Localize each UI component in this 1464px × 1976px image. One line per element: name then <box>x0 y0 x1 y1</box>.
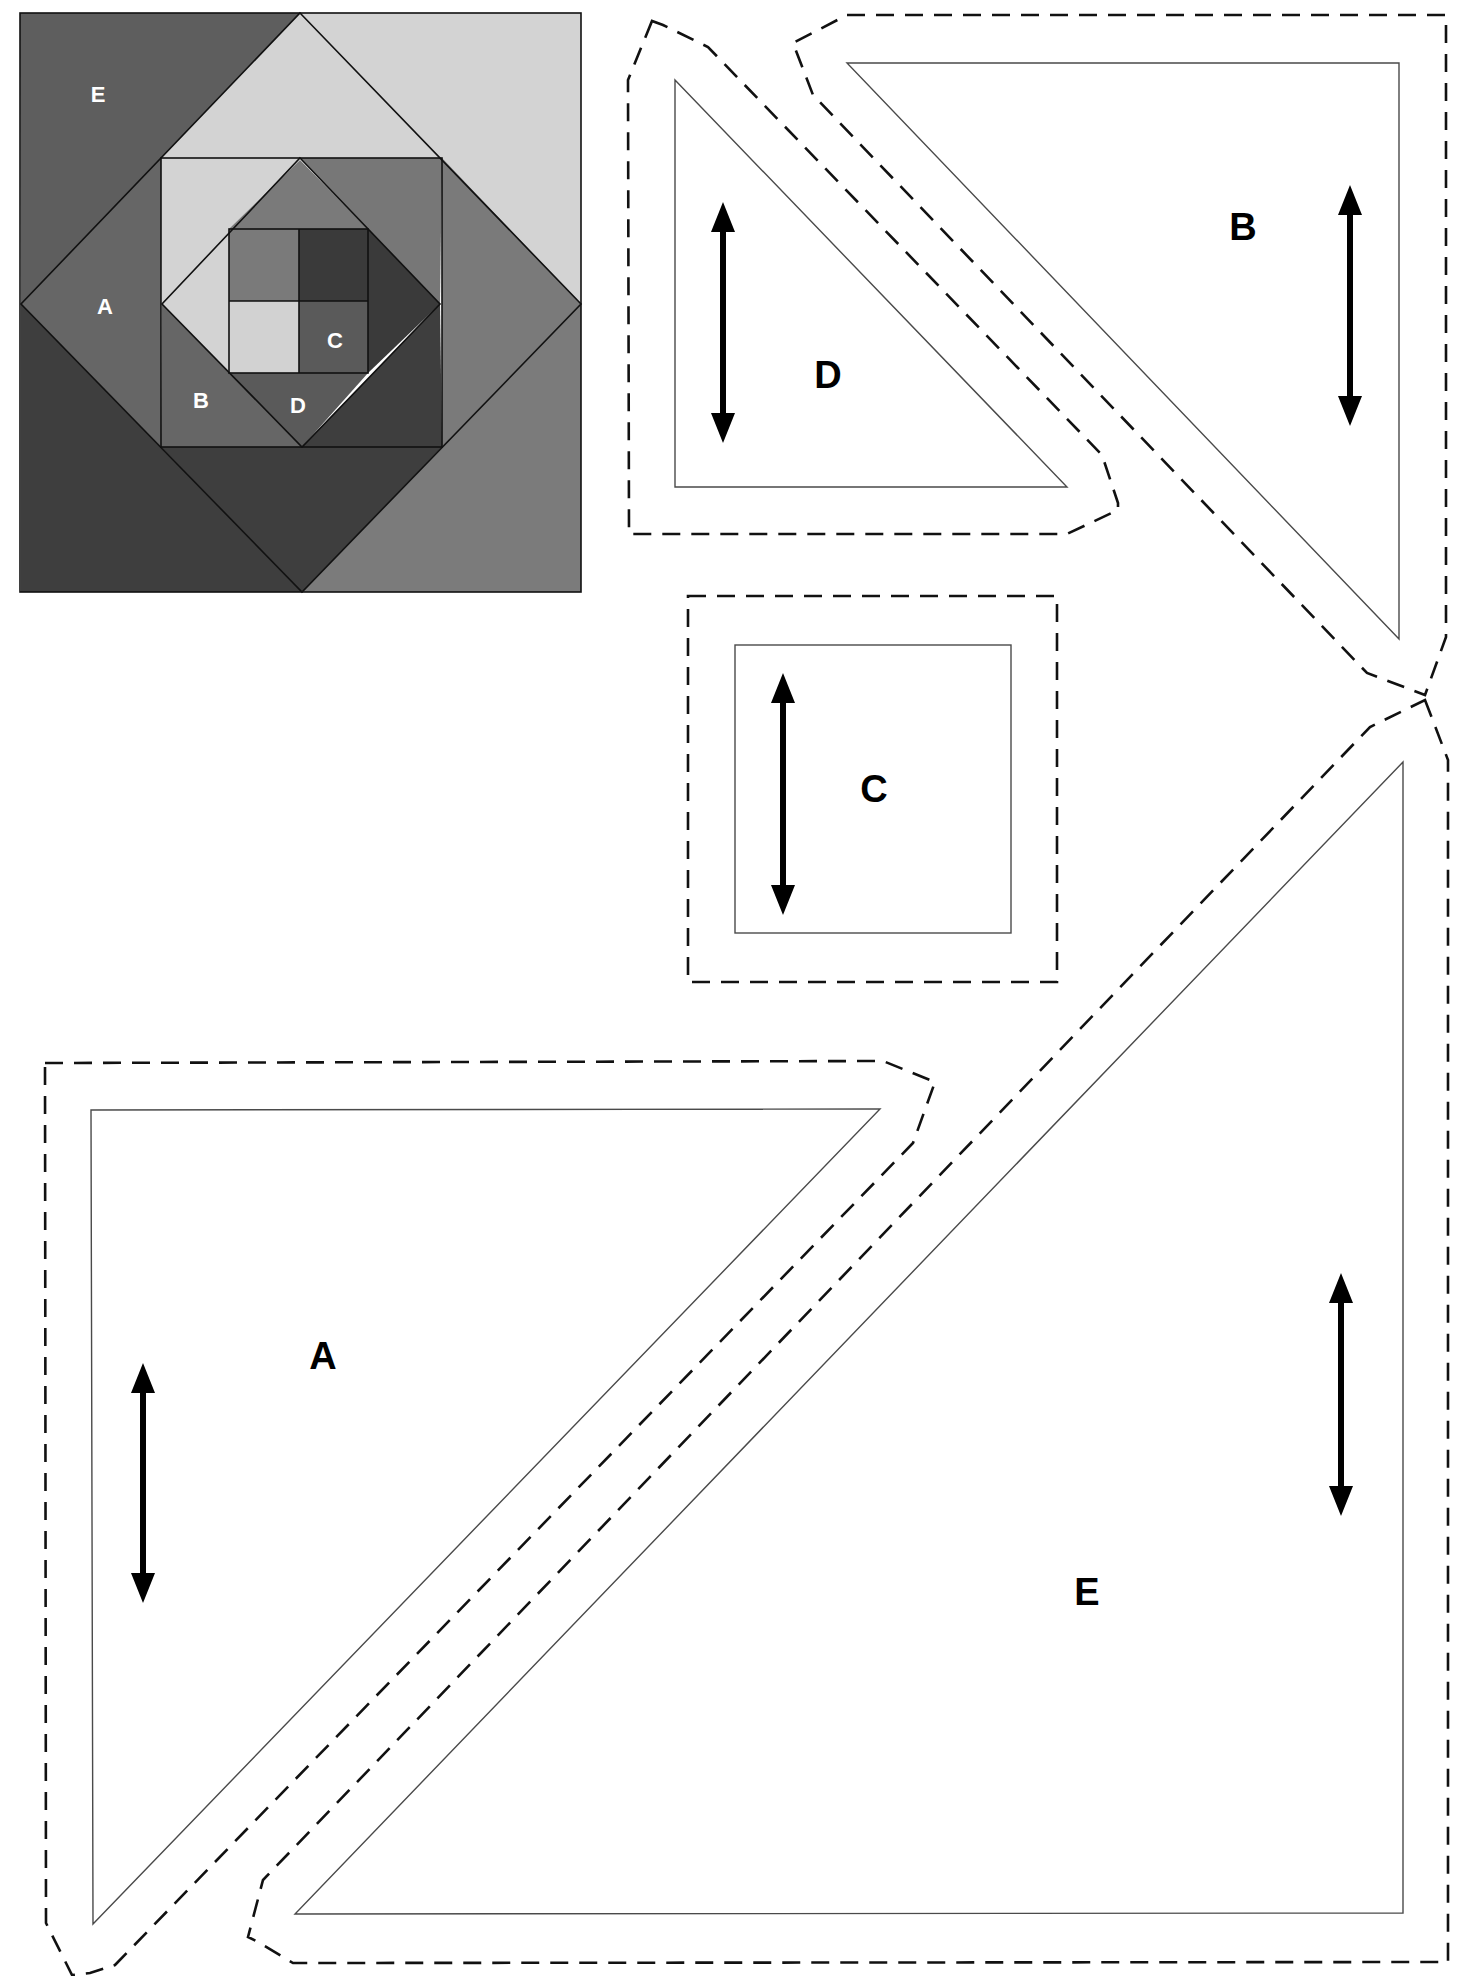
quilt-patch-center-bl <box>229 301 299 373</box>
template-e-sewing-line <box>295 762 1403 1914</box>
template-a-label: A <box>309 1335 336 1377</box>
template-e-cutting-line <box>248 700 1448 1963</box>
template-c-label: C <box>860 768 887 810</box>
grain-arrow-icon <box>131 1363 155 1603</box>
quilt-patch-center-tl <box>229 229 299 301</box>
grain-arrow-icon <box>1338 185 1362 426</box>
template-e: E <box>248 700 1448 1963</box>
quilt-label-d: D <box>290 393 306 418</box>
template-a-cutting-line <box>45 1061 935 1975</box>
template-b-sewing-line <box>847 63 1399 639</box>
template-c: C <box>688 596 1057 982</box>
template-a: A <box>45 1061 935 1975</box>
template-e-label: E <box>1074 1571 1099 1613</box>
quilt-label-c: C <box>327 328 343 353</box>
grain-arrow-icon <box>711 202 735 443</box>
quilt-label-a: A <box>97 294 113 319</box>
template-d: D <box>628 21 1118 534</box>
quilt-label-e: E <box>91 82 106 107</box>
grain-arrow-icon <box>771 673 795 915</box>
template-a-sewing-line <box>91 1109 880 1924</box>
pattern-sheet: E A B D C D B C <box>0 0 1464 1976</box>
template-d-cutting-line <box>628 21 1118 534</box>
template-b-label: B <box>1229 206 1256 248</box>
template-b: B <box>793 15 1446 695</box>
quilt-label-b: B <box>193 388 209 413</box>
quilt-patch-center-tr <box>299 229 368 301</box>
grain-arrow-icon <box>1329 1273 1353 1516</box>
quilt-block-preview: E A B D C <box>20 13 581 592</box>
template-d-sewing-line <box>675 80 1067 487</box>
template-d-label: D <box>814 354 841 396</box>
